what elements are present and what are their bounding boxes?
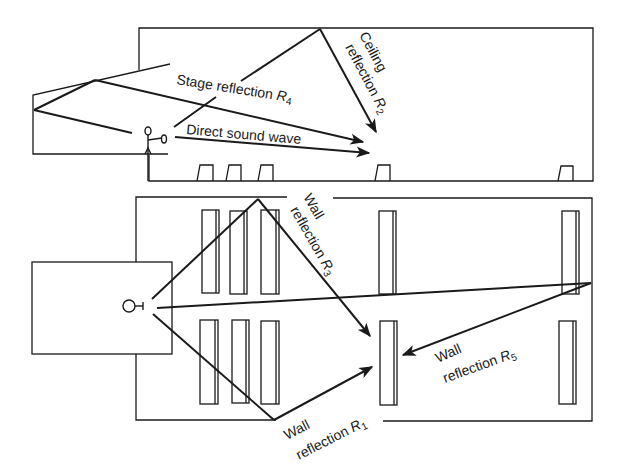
wall-reflection-r5-ray — [157, 283, 591, 355]
stage-house-outline — [33, 64, 170, 154]
stage-reflection-label: Stage reflection — [176, 71, 278, 103]
plan-labels: Wall reflection R3 Wall reflection R1 Wa… — [281, 191, 519, 465]
section-view — [33, 28, 593, 181]
wall-r1-label-line1: Wall — [281, 416, 312, 442]
wall-r5-label-line1: Wall — [433, 340, 464, 365]
seating-rows — [200, 210, 579, 405]
section-labels: Stage reflection R4 Direct sound wave Ce… — [175, 29, 392, 147]
acoustic-reflection-diagram: Stage reflection R4 Direct sound wave Ce… — [0, 0, 619, 476]
stage-plan — [32, 262, 172, 354]
source-plan-icon — [123, 300, 143, 312]
seat-icons — [197, 165, 573, 181]
hall-plan-outline-right — [333, 198, 592, 421]
hall-plan-outline-bottom-left — [136, 354, 276, 420]
